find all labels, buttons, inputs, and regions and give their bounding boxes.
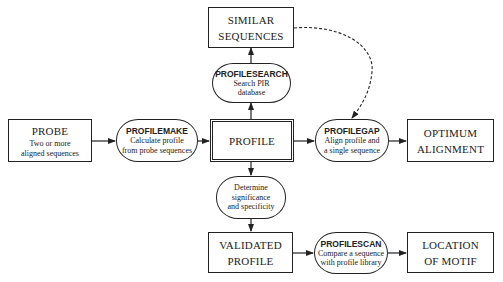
profilegap-program: PROFILEGAP: [324, 126, 379, 136]
edge-similar-profilegap: [294, 28, 372, 118]
profilesearch-node: PROFILESEARCH Search PIR database: [212, 63, 291, 103]
similar-title-line1: SIMILAR: [228, 12, 275, 28]
optimum-title-line1: OPTIMUM: [424, 125, 477, 141]
profilemake-desc-line2: from probe sequences: [122, 146, 192, 156]
profilescan-program: PROFILESCAN: [321, 239, 382, 249]
profilesearch-desc-line2: database: [238, 88, 266, 98]
validated-profile-node: VALIDATED PROFILE: [208, 232, 293, 273]
profilemake-node: PROFILEMAKE Calculate profile from probe…: [116, 119, 198, 162]
location-title-line2: OF MOTIF: [424, 253, 477, 269]
validated-title-line1: VALIDATED: [219, 237, 282, 253]
profilemake-desc-line1: Calculate profile: [130, 136, 184, 146]
profilescan-node: PROFILESCAN Compare a sequence with prof…: [314, 232, 388, 274]
profilesearch-program: PROFILESEARCH: [215, 69, 288, 79]
probe-desc-line1: Two or more: [29, 139, 70, 149]
profilemake-program: PROFILEMAKE: [126, 126, 188, 136]
profile-title: PROFILE: [229, 133, 275, 149]
similar-sequences-node: SIMILAR SEQUENCES: [208, 7, 294, 48]
determine-desc-line1: Determine significance: [217, 183, 285, 202]
profilesearch-desc-line1: Search PIR: [233, 79, 269, 89]
optimum-title-line2: ALIGNMENT: [417, 141, 484, 157]
determine-significance-node: Determine significance and specificity: [216, 176, 286, 219]
probe-desc-line2: aligned sequences: [21, 149, 79, 159]
validated-title-line2: PROFILE: [227, 253, 273, 269]
determine-desc-line2: and specificity: [228, 202, 275, 212]
profilegap-desc-line1: Align profile and: [324, 136, 379, 146]
profilegap-desc-line2: a single sequence: [324, 146, 380, 156]
similar-title-line2: SEQUENCES: [218, 28, 283, 44]
profilegap-node: PROFILEGAP Align profile and a single se…: [315, 119, 389, 162]
profilescan-desc-line1: Compare a sequence: [318, 249, 384, 259]
profile-node: PROFILE: [210, 119, 294, 162]
probe-node: PROBE Two or more aligned sequences: [8, 119, 92, 162]
location-of-motif-node: LOCATION OF MOTIF: [407, 232, 494, 273]
optimum-alignment-node: OPTIMUM ALIGNMENT: [407, 119, 494, 162]
location-title-line1: LOCATION: [422, 237, 479, 253]
profilescan-desc-line2: with profile library: [321, 258, 382, 268]
probe-title: PROBE: [32, 123, 68, 139]
